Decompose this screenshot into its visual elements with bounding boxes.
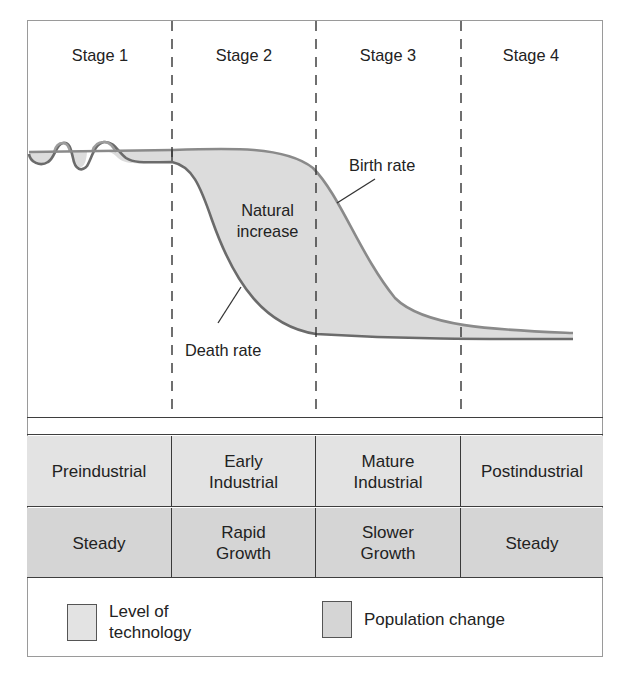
population-row: Steady RapidGrowth SlowerGrowth Steady: [27, 508, 603, 578]
natural-increase-area: [29, 149, 573, 339]
stage-3-label: Stage 3: [319, 46, 457, 66]
demographic-transition-diagram: Stage 1 Stage 2 Stage 3 Stage 4 Birth ra…: [0, 0, 624, 678]
birth-rate-label: Birth rate: [349, 155, 415, 176]
cell-text: Postindustrial: [481, 461, 583, 482]
technology-row: Preindustrial EarlyIndustrial MatureIndu…: [27, 436, 603, 507]
cell-text: Steady: [73, 533, 126, 554]
cell-text: Slower: [361, 522, 416, 543]
death-rate-leader-line: [218, 287, 241, 323]
technology-cell-stage-3: MatureIndustrial: [316, 436, 461, 507]
cell-text: Rapid: [216, 522, 271, 543]
population-cell-stage-3: SlowerGrowth: [316, 508, 461, 578]
cell-text: Early: [209, 451, 278, 472]
legend-item-technology: Level of technology: [67, 601, 191, 643]
cell-text: Steady: [506, 533, 559, 554]
cell-text: Mature: [354, 451, 423, 472]
chart-bottom-rule: [27, 417, 603, 418]
natural-increase-label: Natural increase: [233, 200, 302, 242]
legend-label-technology: Level of technology: [109, 601, 191, 643]
population-cell-stage-4: Steady: [461, 508, 603, 578]
stage-4-label: Stage 4: [462, 46, 600, 66]
table-top-rule: [27, 434, 603, 435]
cell-text: Growth: [361, 543, 416, 564]
legend-swatch-population: [322, 601, 352, 638]
legend-label-population: Population change: [364, 609, 505, 630]
cell-text: Industrial: [354, 472, 423, 493]
legend-text-line: technology: [109, 622, 191, 643]
stage-2-label: Stage 2: [175, 46, 313, 66]
population-cell-stage-2: RapidGrowth: [172, 508, 316, 578]
technology-cell-stage-2: EarlyIndustrial: [172, 436, 316, 507]
table-row-divider: [27, 506, 603, 507]
cell-text: Growth: [216, 543, 271, 564]
technology-cell-stage-4: Postindustrial: [461, 436, 603, 507]
natural-increase-line1: Natural: [233, 200, 302, 221]
natural-increase-line2: increase: [233, 221, 302, 242]
death-rate-label: Death rate: [185, 340, 261, 361]
legend-item-population: Population change: [322, 601, 505, 638]
stage-1-label: Stage 1: [31, 46, 169, 66]
cell-text: Preindustrial: [52, 461, 147, 482]
table-bottom-rule: [27, 577, 603, 578]
cell-text: Industrial: [209, 472, 278, 493]
technology-cell-stage-1: Preindustrial: [27, 436, 172, 507]
birth-rate-leader-line: [337, 179, 375, 203]
population-cell-stage-1: Steady: [27, 508, 172, 578]
legend-swatch-technology: [67, 604, 97, 641]
legend-text-line: Level of: [109, 601, 191, 622]
